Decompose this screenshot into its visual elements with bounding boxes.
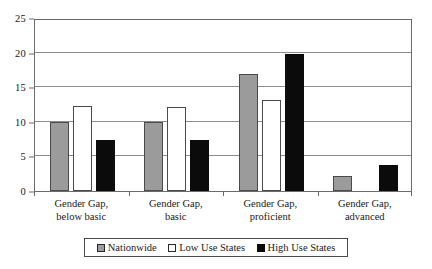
x-axis-category-label-line2: proficient	[223, 210, 318, 223]
bar-high-use-states-1	[96, 140, 115, 191]
x-axis-labels: Gender Gap,below basicGender Gap,basicGe…	[34, 197, 412, 229]
y-axis-tick-label-25: 25	[15, 14, 26, 24]
bar-nationwide-4	[333, 176, 352, 191]
black-square-swatch	[257, 244, 265, 252]
bar-high-use-states-4	[379, 165, 398, 191]
x-axis-category-label-4: Gender Gap,advanced	[318, 197, 413, 223]
x-axis-category-label-line2: basic	[129, 210, 224, 223]
bar-low-use-states-1	[73, 106, 92, 191]
bar-nationwide-1	[50, 122, 69, 191]
y-axis-tick-label-20: 20	[15, 49, 26, 59]
bar-chart-figure: 0510152025 Gender Gap,below basicGender …	[0, 0, 432, 269]
bar-low-use-states-3	[262, 100, 281, 191]
bar-nationwide-3	[239, 74, 258, 191]
x-axis-category-label-1: Gender Gap,below basic	[34, 197, 129, 223]
bar-high-use-states-2	[190, 140, 209, 191]
x-axis-tick-mark-4	[411, 191, 412, 196]
x-axis-category-label-line1: Gender Gap,	[129, 197, 224, 210]
bars-layer	[35, 20, 411, 191]
x-axis-category-label-line1: Gender Gap,	[318, 197, 413, 210]
x-axis-category-label-line2: below basic	[34, 210, 129, 223]
y-axis-tick-label-5: 5	[21, 152, 26, 162]
x-axis-category-label-line1: Gender Gap,	[223, 197, 318, 210]
legend-label: High Use States	[268, 242, 336, 253]
bar-high-use-states-3	[285, 54, 304, 191]
legend-item-low-use-states[interactable]: Low Use States	[168, 242, 245, 253]
y-axis-tick-label-10: 10	[15, 118, 26, 128]
legend-label: Nationwide	[108, 242, 157, 253]
bar-nationwide-2	[144, 122, 163, 191]
legend-item-high-use-states[interactable]: High Use States	[257, 242, 336, 253]
y-axis: 0510152025	[0, 19, 30, 192]
x-axis-tick-mark-3	[318, 191, 319, 196]
legend-item-nationwide[interactable]: Nationwide	[97, 242, 157, 253]
x-axis-category-label-line1: Gender Gap,	[34, 197, 129, 210]
x-axis-category-label-2: Gender Gap,basic	[129, 197, 224, 223]
x-axis-category-label-line2: advanced	[318, 210, 413, 223]
x-axis-tick-mark-2	[223, 191, 224, 196]
y-axis-tick-label-0: 0	[21, 187, 26, 197]
white-square-swatch	[168, 244, 176, 252]
x-axis-category-label-3: Gender Gap,proficient	[223, 197, 318, 223]
x-axis-tick-mark-0	[34, 191, 35, 196]
bar-low-use-states-2	[167, 107, 186, 191]
chart-legend: NationwideLow Use StatesHigh Use States	[84, 238, 348, 257]
x-axis-tick-mark-1	[129, 191, 130, 196]
gray-square-swatch	[97, 244, 105, 252]
y-axis-tick-label-15: 15	[15, 83, 26, 93]
legend-label: Low Use States	[179, 242, 245, 253]
plot-area	[34, 19, 412, 192]
